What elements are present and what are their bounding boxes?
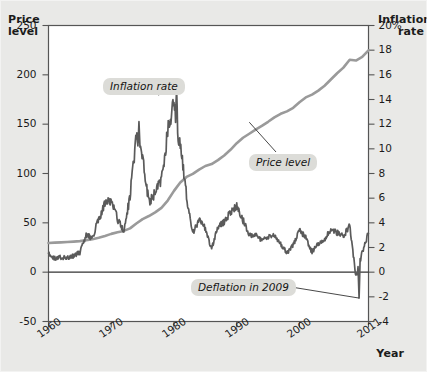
left-tick-label: 50 [0,217,37,228]
right-tick-label: -2 [379,291,419,302]
left-axis-ticks [43,26,49,322]
x-axis-ticks [49,322,369,328]
plot-frame [49,26,369,322]
right-tick-label: 10 [379,143,419,154]
callout-price-level: Price level [249,154,317,171]
callout-deflation-2009: Deflation in 2009 [191,279,296,296]
plot-area-background [49,26,369,322]
right-tick-label: 18 [379,44,419,55]
right-axis-ticks [369,26,375,322]
right-tick-label: -4 [379,316,419,327]
right-tick-label: 20% [379,20,419,31]
left-tick-label: 0 [0,266,37,277]
right-tick-label: 2 [379,242,419,253]
plot-canvas [0,0,427,372]
callout-inflation-rate: Inflation rate [103,78,185,95]
chart-figure: Price level Inflation rate Year -5005010… [0,0,427,372]
left-tick-label: 250 [0,20,37,31]
left-tick-label: 150 [0,118,37,129]
right-tick-label: 4 [379,217,419,228]
right-tick-label: 16 [379,69,419,80]
right-tick-label: 8 [379,168,419,179]
left-tick-label: 100 [0,168,37,179]
left-tick-label: -50 [0,316,37,327]
right-tick-label: 12 [379,118,419,129]
left-tick-label: 200 [0,69,37,80]
right-tick-label: 0 [379,266,419,277]
right-tick-label: 6 [379,192,419,203]
right-tick-label: 14 [379,94,419,105]
